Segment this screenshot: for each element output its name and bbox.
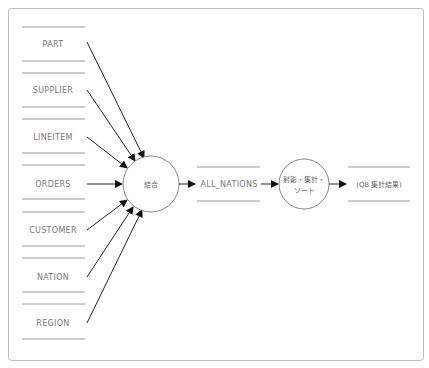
process-projection-aggregate-sort: 射影・集計・ ソート [279,159,329,209]
process-final-label-line1: 射影・集計・ [283,175,325,184]
source-label-customer: CUSTOMER [29,226,77,235]
process-join: 結合 [123,156,179,212]
store-all-nations-label: ALL_NATIONS [200,180,257,189]
process-final-label-line2: ソート [294,187,315,195]
source-label-orders: ORDERS [35,180,71,189]
arrow-region [87,210,142,323]
arrow-lineitem [87,137,127,168]
store-q8-result: (Q8 集計結果) [348,167,410,201]
source-label-region: REGION [36,319,69,328]
source-label-nation: NATION [37,273,69,282]
process-join-label: 結合 [144,180,158,189]
source-label-part: PART [43,40,64,49]
process-final-circle [279,159,329,209]
data-flow-diagram: PART SUPPLIER LINEITEM ORDERS CUSTOMER N… [0,0,429,368]
source-label-lineitem: LINEITEM [33,133,72,142]
store-q8-result-label: (Q8 集計結果) [356,180,402,189]
arrow-part [87,42,144,158]
source-label-supplier: SUPPLIER [33,86,74,95]
store-all-nations: ALL_NATIONS [197,167,260,201]
